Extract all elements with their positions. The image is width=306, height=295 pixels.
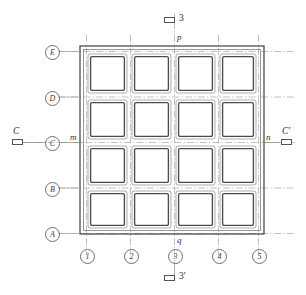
- panel-cell-outer: [132, 54, 171, 93]
- section-leader-lines: [23, 14, 280, 276]
- grid-col-label-3[interactable]: 3: [168, 249, 183, 264]
- outer-wall-inner-outline: [83, 49, 260, 230]
- section-rect-icon-bottom[interactable]: [164, 275, 175, 281]
- panel-cell-outer: [88, 146, 127, 185]
- row-label-text: C: [50, 139, 55, 148]
- panel-cell-outer: [220, 191, 256, 228]
- panel-cell-outer: [88, 100, 127, 139]
- grid-row-label-D[interactable]: D: [45, 91, 60, 106]
- col-label-text: 5: [258, 252, 262, 261]
- outer-wall: [80, 46, 264, 234]
- panel-cell-inner: [179, 103, 213, 137]
- panel-cell-outer: [176, 191, 215, 228]
- panel-cell-outer: [88, 54, 127, 93]
- panel-grid: [88, 54, 256, 228]
- panel-cell-inner: [135, 194, 169, 226]
- section-rect-icon-top[interactable]: [164, 17, 175, 23]
- row-label-text: B: [50, 184, 55, 193]
- point-label-q: q: [177, 236, 182, 245]
- panel-cell-outer: [132, 100, 171, 139]
- panel-row-4: [88, 191, 256, 228]
- panel-cell-outer: [176, 146, 215, 185]
- panel-cell-inner: [135, 103, 169, 137]
- section-rect-icon-left[interactable]: [12, 139, 23, 145]
- section-label-3-prime: 3': [179, 272, 185, 282]
- point-label-n: n: [266, 133, 271, 142]
- panel-cell-inner: [179, 194, 213, 226]
- point-label-p: p: [177, 33, 182, 42]
- panel-cell-inner: [91, 194, 125, 226]
- grid-col-label-2[interactable]: 2: [124, 249, 139, 264]
- panel-cell-inner: [91, 149, 125, 183]
- row-label-text: E: [50, 48, 55, 57]
- panel-cell-outer: [176, 54, 215, 93]
- panel-cell-inner: [179, 149, 213, 183]
- grid-row-label-A[interactable]: A: [45, 227, 60, 242]
- panel-cell-inner: [223, 194, 254, 226]
- panel-cell-outer: [220, 146, 256, 185]
- col-label-text: 3: [174, 252, 178, 261]
- panel-cell-outer: [132, 146, 171, 185]
- section-label-C: C: [13, 127, 19, 137]
- col-label-text: 4: [218, 252, 222, 261]
- col-label-text: 2: [130, 252, 134, 261]
- panel-cell-outer: [176, 100, 215, 139]
- panel-row-2: [88, 100, 256, 139]
- section-rect-icon-right[interactable]: [281, 139, 292, 145]
- panel-cell-outer: [132, 191, 171, 228]
- panel-cell-outer: [88, 191, 127, 228]
- section-label-3: 3: [179, 14, 184, 24]
- grid-col-label-5[interactable]: 5: [252, 249, 267, 264]
- panel-cell-inner: [91, 57, 125, 91]
- panel-cell-inner: [135, 149, 169, 183]
- panel-cell-outer: [220, 100, 256, 139]
- grid-row-label-B[interactable]: B: [45, 182, 60, 197]
- row-label-text: D: [50, 93, 56, 102]
- col-label-text: 1: [86, 252, 90, 261]
- panel-cell-inner: [223, 149, 254, 183]
- diagram-canvas: E D C B A 1 2 3 4 5 m n p q C C' 3 3': [0, 0, 306, 295]
- panel-cell-inner: [91, 103, 125, 137]
- panel-cell-outer: [220, 54, 256, 93]
- point-label-m: m: [70, 133, 77, 142]
- row-label-text: A: [50, 230, 55, 239]
- panel-cell-inner: [223, 57, 254, 91]
- panel-row-3: [88, 146, 256, 185]
- grid-row-label-E[interactable]: E: [45, 45, 60, 60]
- panel-cell-inner: [223, 103, 254, 137]
- panel-cell-inner: [135, 57, 169, 91]
- panel-row-1: [88, 54, 256, 93]
- section-label-C-prime: C': [282, 127, 290, 137]
- grid-col-label-4[interactable]: 4: [212, 249, 227, 264]
- panel-cell-inner: [179, 57, 213, 91]
- grid-row-label-C[interactable]: C: [45, 136, 60, 151]
- grid-col-label-1[interactable]: 1: [80, 249, 95, 264]
- outer-wall-outline: [80, 46, 264, 234]
